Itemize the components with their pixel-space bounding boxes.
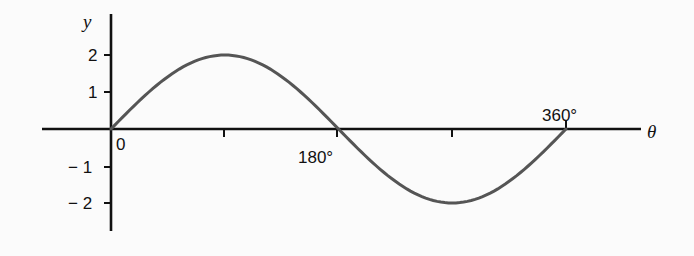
y-tick-label-2: 2	[88, 46, 97, 65]
y-tick-label-neg1: − 1	[68, 158, 92, 177]
x-tick-label-180: 180°	[298, 148, 333, 167]
y-tick-label-1: 1	[88, 83, 97, 102]
y-axis-label: y	[81, 11, 92, 32]
y-tick-label-neg2: − 2	[68, 194, 92, 213]
x-tick-label-360: 360°	[542, 106, 577, 125]
origin-label: 0	[116, 135, 125, 154]
sine-chart: y θ 0 180° 360° 2 1 − 1 − 2	[0, 0, 694, 256]
x-axis-label: θ	[647, 121, 656, 142]
